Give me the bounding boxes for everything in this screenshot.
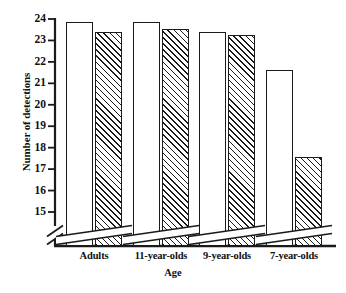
bar-open	[266, 70, 293, 246]
y-axis-tick-label: 22	[24, 56, 46, 68]
y-axis-tick-label: 19	[24, 120, 46, 132]
y-axis-tick-label: 15	[24, 206, 46, 218]
bar-chart-figure: Number of detections 1516171819202122232…	[0, 0, 346, 293]
bar-open	[199, 32, 226, 246]
y-axis-tick-label: 20	[24, 99, 46, 111]
y-axis-tick-labels: 15161718192021222324	[22, 0, 46, 293]
y-axis-tick-label: 18	[24, 142, 46, 154]
x-axis-category-label: 7-year-olds	[249, 250, 339, 261]
y-axis-tick-label: 16	[24, 185, 46, 197]
bar-hatched	[162, 29, 189, 246]
bar-hatched	[295, 157, 322, 246]
y-axis-tick-label: 21	[24, 77, 46, 89]
y-axis-tick-label: 17	[24, 163, 46, 175]
bar-hatched	[95, 32, 122, 246]
bar-hatched	[228, 35, 255, 246]
y-axis-tick-label: 23	[24, 34, 46, 46]
bar-open	[133, 22, 160, 246]
bar-open	[66, 22, 93, 246]
plot-area	[55, 14, 336, 246]
y-axis-tick-label: 24	[24, 13, 46, 25]
x-axis-title: Age	[0, 267, 346, 278]
